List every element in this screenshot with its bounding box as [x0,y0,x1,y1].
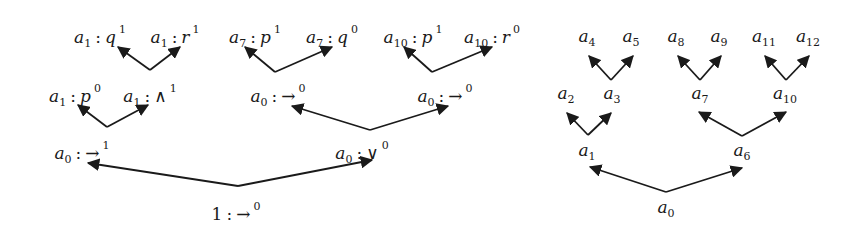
node-variable: a [691,83,701,103]
node-variable: a [335,143,345,163]
node-superscript: 0 [466,82,473,95]
right-edge-arrow [567,113,588,135]
right-edge-arrow [678,56,700,80]
node-symbol: q [105,27,116,47]
node-variable: a [49,86,59,106]
node-variable: a [557,83,567,103]
node-subscript: 12 [806,36,820,49]
node-subscript: 10 [474,37,488,50]
tree-node: a12 [796,28,820,48]
node-variable: a [733,140,743,160]
node-superscript: 1 [119,23,126,36]
tree-node: 1:→0 [212,201,261,223]
node-subscript: 9 [721,36,728,49]
node-symbol: → [281,86,295,106]
node-separator: : [352,143,366,163]
node-subscript: 2 [568,93,575,106]
node-subscript: 3 [614,93,621,106]
tree-node: a4 [578,28,595,48]
tree-node: a5 [622,28,639,48]
node-separator: : [66,86,80,106]
node-separator: : [168,27,182,47]
node-symbol: → [85,143,99,163]
node-subscript: 11 [762,36,776,49]
node-subscript: 7 [702,93,709,106]
node-separator: : [408,27,422,47]
node-symbol: p [80,86,91,106]
node-separator: : [488,27,502,47]
node-superscript: 0 [299,82,306,95]
node-variable: a [229,27,239,47]
tree-node: a7:p1 [229,24,281,49]
node-symbol: r [181,27,189,47]
tree-node: a0:→0 [250,83,305,108]
node-variable: a [773,83,783,103]
node-separator: : [268,86,282,106]
node-superscript: 0 [351,23,358,36]
node-superscript: 0 [94,82,101,95]
node-subscript: 8 [678,36,685,49]
tree-node: a2 [557,85,574,105]
node-superscript: 0 [382,139,389,152]
node-variable: a [417,86,427,106]
right-tree-edges [567,56,809,192]
node-variable: a [384,27,394,47]
node-variable: a [578,26,588,46]
node-symbol: q [337,27,348,47]
tree-node: a1 [578,142,595,162]
left-edge-arrow [292,106,370,130]
node-variable: a [464,27,474,47]
node-variable: a [796,26,806,46]
node-subscript: 5 [633,36,640,49]
right-edge-arrow [666,168,742,192]
tree-node: a10:p1 [384,24,443,49]
right-edge-arrow [742,112,786,136]
left-edge-arrow [78,105,107,127]
node-variable: a [603,83,613,103]
node-superscript: 1 [170,82,177,95]
tree-node: a3 [603,85,620,105]
tree-node: a0:∨0 [335,140,388,165]
node-variable: a [74,27,84,47]
node-variable: a [54,143,64,163]
node-separator: : [222,204,236,224]
node-separator: : [91,27,105,47]
node-symbol: ∧ [154,86,166,106]
left-edge-arrow [245,47,275,72]
node-subscript: 1 [589,150,596,163]
node-symbol: p [421,27,432,47]
right-edge-arrow [699,112,742,136]
node-superscript: 1 [193,23,200,36]
tree-node: a7 [691,85,708,105]
node-variable: a [752,26,762,46]
tree-node: a0 [657,199,674,219]
node-superscript: 1 [435,23,442,36]
node-subscript: 0 [668,207,675,220]
node-superscript: 1 [103,139,110,152]
tree-node: a6 [733,142,750,162]
node-subscript: 10 [394,37,408,50]
node-superscript: 0 [253,200,260,213]
node-subscript: 6 [744,150,751,163]
left-edge-arrow [275,47,332,72]
node-superscript: 0 [513,23,520,36]
left-edge-arrow [88,163,238,186]
node-separator: : [435,86,449,106]
left-edge-arrow [370,106,448,130]
right-edge-arrow [786,56,809,80]
node-subscript: 4 [589,36,596,49]
node-symbol: ∨ [366,143,378,163]
node-variable: a [622,26,632,46]
tree-node: a11 [752,28,776,48]
left-tree-edges [78,47,492,186]
right-edge-arrow [589,56,611,80]
left-edge-arrow [404,47,432,72]
tree-node: a7:q0 [306,24,358,49]
tree-node: a0:→1 [54,140,109,165]
right-edge-arrow [590,167,666,192]
node-separator: : [246,27,260,47]
left-edge-arrow [432,47,492,72]
right-edge-arrow [611,56,633,80]
node-variable: a [578,140,588,160]
tree-node: a1:q1 [74,24,126,49]
